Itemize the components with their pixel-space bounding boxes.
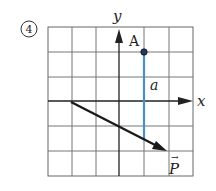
x-axis-label: x [197, 92, 206, 110]
point-marker-icon [141, 49, 147, 55]
problem-number: 4 [26, 23, 33, 36]
vector-p: P → [71, 102, 180, 178]
point-label: A [128, 33, 140, 49]
vector-diagram: 4 x y a A P → [0, 0, 216, 191]
problem-number-badge: 4 [21, 21, 37, 37]
vector-arrowhead-icon [152, 141, 167, 151]
segment-label: a [150, 77, 158, 93]
vector-label: P [168, 160, 180, 178]
y-axis-arrow-icon [115, 29, 123, 43]
vector-arrow-icon: → [171, 152, 179, 162]
x-axis-arrow-icon [178, 97, 193, 105]
y-axis-label: y [112, 7, 122, 25]
